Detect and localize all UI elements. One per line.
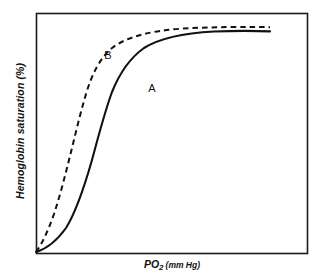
x-axis-title: PO2(mm Hg) xyxy=(36,258,308,270)
figure-root: Hemoglobin saturation (%) B A PO2(mm Hg) xyxy=(0,0,323,273)
plot-area: B A xyxy=(0,0,323,273)
plot-frame xyxy=(37,14,308,254)
curve-b-label: B xyxy=(104,49,111,61)
x-axis-title-units: (mm Hg) xyxy=(166,260,200,270)
x-axis-title-main: PO xyxy=(144,258,159,270)
x-axis-title-subscript: 2 xyxy=(159,263,163,272)
curve-a-label: A xyxy=(148,82,156,94)
